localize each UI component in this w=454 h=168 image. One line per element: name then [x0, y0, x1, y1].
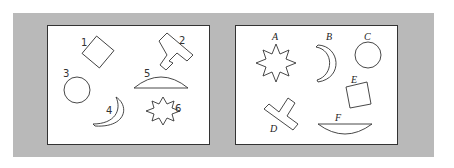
shape-a-eight-point-star: A — [256, 31, 296, 82]
shape-3-circle: 3 — [63, 68, 90, 103]
label-5: 5 — [144, 68, 150, 79]
shape-d-t-shape: D — [264, 98, 298, 134]
label-1: 1 — [81, 37, 87, 48]
label-4: 4 — [106, 105, 112, 116]
shape-2-t-shape: 2 — [159, 33, 193, 70]
label-c: C — [364, 31, 371, 42]
label-f: F — [334, 112, 342, 123]
label-2: 2 — [179, 35, 185, 46]
shape-b-crescent: B — [316, 31, 336, 82]
label-d: D — [269, 123, 278, 134]
label-3: 3 — [63, 68, 69, 79]
shape-f-arc-segment: F — [318, 112, 372, 134]
label-e: E — [350, 74, 357, 85]
label-b: B — [326, 31, 332, 42]
label-a: A — [271, 31, 279, 42]
shape-c-circle: C — [355, 31, 381, 68]
shape-1-diamond: 1 — [81, 35, 116, 70]
shape-4-crescent: 4 — [93, 97, 124, 126]
label-6: 6 — [175, 103, 181, 114]
shape-5-arc-segment: 5 — [134, 68, 188, 88]
shape-6-eight-point-star: 6 — [146, 97, 181, 125]
shape-e-square: E — [346, 74, 371, 108]
